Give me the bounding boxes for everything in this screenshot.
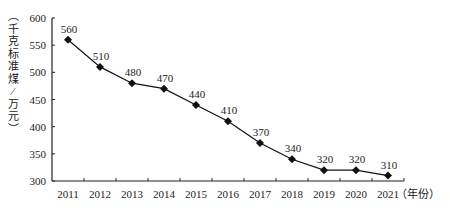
- x-tick-label: 2015: [185, 188, 208, 200]
- data-point-marker: [192, 101, 200, 109]
- svg-text:元: 元: [8, 110, 19, 122]
- data-point-marker: [256, 139, 264, 147]
- x-axis-label: （年份）: [396, 187, 440, 200]
- data-point-marker: [160, 85, 168, 93]
- svg-text:煤: 煤: [8, 73, 19, 85]
- data-value-label: 510: [93, 50, 110, 62]
- data-value-label: 320: [349, 153, 366, 165]
- x-tick-label: 2020: [345, 188, 368, 200]
- y-tick-label: 450: [30, 94, 47, 106]
- x-tick-label: 2019: [313, 188, 336, 200]
- data-point-marker: [384, 172, 392, 180]
- x-tick-label: 2011: [57, 188, 79, 200]
- x-tick-label: 2013: [121, 188, 144, 200]
- data-value-label: 370: [253, 126, 270, 138]
- svg-text:︶: ︶: [8, 123, 19, 135]
- y-tick-label: 400: [30, 121, 47, 133]
- y-axis-label: ︵千克标准煤∕万元︶: [8, 10, 19, 135]
- data-value-label: 340: [285, 142, 302, 154]
- data-point-marker: [352, 166, 360, 174]
- data-point-marker: [320, 166, 328, 174]
- x-tick-label: 2018: [281, 188, 304, 200]
- svg-text:千: 千: [8, 23, 19, 35]
- data-point-marker: [128, 79, 136, 87]
- y-tick-label: 500: [30, 66, 47, 78]
- svg-text:准: 准: [8, 60, 19, 72]
- y-tick-label: 550: [30, 39, 47, 51]
- y-axis: 300350400450500550600: [30, 12, 56, 187]
- data-value-label: 320: [317, 153, 334, 165]
- svg-text:︵: ︵: [8, 10, 19, 22]
- data-value-label: 440: [189, 88, 206, 100]
- data-point-marker: [288, 155, 296, 163]
- line-chart: 300350400450500550600 201120122013201420…: [0, 0, 450, 212]
- data-value-label: 310: [381, 159, 398, 171]
- data-labels: 560510480470440410370340320320310: [61, 23, 398, 171]
- data-point-marker: [224, 117, 232, 125]
- x-tick-label: 2012: [89, 188, 111, 200]
- svg-text:克: 克: [8, 35, 19, 47]
- x-axis: 2011201220132014201520162017201820192020…: [52, 178, 404, 200]
- y-tick-label: 300: [30, 175, 47, 187]
- data-value-label: 480: [125, 66, 142, 78]
- x-tick-label: 2017: [249, 188, 272, 200]
- y-tick-label: 600: [30, 12, 47, 24]
- y-tick-label: 350: [30, 148, 47, 160]
- svg-text:万: 万: [8, 98, 19, 110]
- svg-text:标: 标: [8, 47, 19, 60]
- data-value-label: 410: [221, 104, 238, 116]
- data-value-label: 560: [61, 23, 78, 35]
- svg-text:∕: ∕: [10, 85, 16, 97]
- data-value-label: 470: [157, 72, 174, 84]
- x-tick-label: 2014: [153, 188, 176, 200]
- x-tick-label: 2016: [217, 188, 240, 200]
